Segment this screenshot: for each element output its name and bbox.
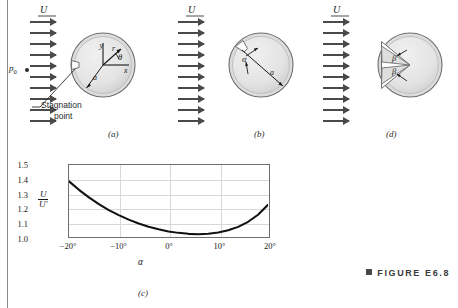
- flow-arrow: [178, 116, 214, 127]
- svg-text:a: a: [93, 73, 97, 82]
- chart-xtick-label: 10°: [200, 241, 240, 251]
- flow-arrow: [30, 50, 66, 61]
- flow-arrow: [323, 17, 359, 28]
- chart-ytick-label: 1.1: [0, 219, 28, 229]
- chart-ytick-label: 1.5: [0, 160, 28, 170]
- flow-arrow: [178, 39, 214, 50]
- chart-ytick-label: 1.3: [0, 190, 28, 200]
- velocity-ratio-chart: U U' 1.5 1.4 1.3 1.2 1.1 1.0 −20° −10°: [20, 160, 280, 280]
- panel-label-b: (b): [254, 129, 265, 139]
- flow-arrow: [323, 39, 359, 50]
- svg-text:y: y: [99, 41, 104, 50]
- svg-text:a: a: [270, 68, 274, 77]
- stagnation-point-annotation: Stagnation point: [41, 100, 82, 121]
- panel-label-d: (d): [386, 129, 397, 139]
- flow-arrow: [178, 72, 214, 83]
- flow-arrow: [323, 105, 359, 116]
- flow-arrow: [178, 61, 214, 72]
- u-underline-d: [331, 14, 349, 18]
- u-underline-b: [186, 14, 204, 18]
- flow-arrow: [30, 17, 66, 28]
- flow-arrow: [178, 28, 214, 39]
- flow-arrow: [30, 28, 66, 39]
- svg-text:α: α: [242, 54, 247, 64]
- left-vertical-rule: [7, 0, 8, 308]
- pressure-label-a: p0: [9, 63, 17, 75]
- flow-arrow: [323, 28, 359, 39]
- sphere-diagram-b: α a: [224, 26, 298, 104]
- flow-arrow: [30, 39, 66, 50]
- flow-arrow: [178, 105, 214, 116]
- chart-xtick-label: 0°: [149, 241, 189, 251]
- flow-arrow: [178, 17, 214, 28]
- flow-arrow: [178, 83, 214, 94]
- flow-arrows-panel-b: [178, 17, 214, 127]
- panel-label-a: (a): [108, 129, 119, 139]
- svg-text:β: β: [391, 53, 397, 63]
- flow-arrows-panel-d: [323, 17, 359, 127]
- svg-text:β: β: [391, 66, 397, 76]
- flow-arrow: [178, 94, 214, 105]
- svg-text:θ: θ: [118, 52, 122, 62]
- flow-arrow: [323, 94, 359, 105]
- caption-bullet-icon: [366, 269, 372, 275]
- flow-arrow: [323, 61, 359, 72]
- flow-arrow: [178, 50, 214, 61]
- chart-data-curve: [69, 165, 268, 236]
- chart-ytick-label: 1.2: [0, 204, 28, 214]
- chart-ytick-label: 1.0: [0, 234, 28, 244]
- svg-text:x: x: [123, 66, 128, 75]
- flow-arrow: [323, 116, 359, 127]
- flow-arrow: [323, 83, 359, 94]
- flow-arrow: [323, 50, 359, 61]
- chart-ytick-label: 1.4: [0, 175, 28, 185]
- chart-x-axis-label: α: [138, 257, 143, 267]
- chart-xtick-label: 20°: [250, 241, 290, 251]
- chart-xtick-label: −20°: [48, 241, 88, 251]
- u-underline-a: [38, 14, 56, 18]
- figure-caption: FIGURE E6.8: [366, 268, 450, 278]
- panel-label-c: (c): [138, 288, 148, 298]
- chart-xtick-label: −10°: [99, 241, 139, 251]
- flow-arrow: [323, 72, 359, 83]
- sphere-diagram-d: β β: [370, 26, 448, 104]
- chart-y-axis-label: U U': [38, 190, 48, 209]
- figure-page: U p0: [0, 0, 458, 308]
- chart-plot-area: [68, 164, 270, 238]
